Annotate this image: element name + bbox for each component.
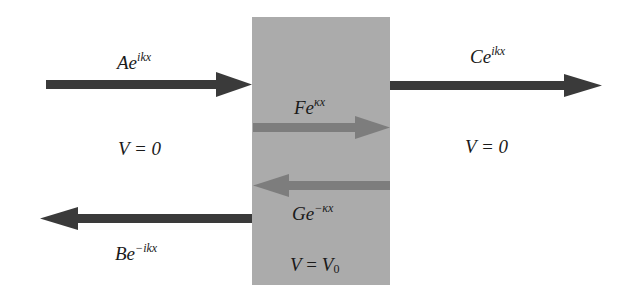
right-region-potential-label: V = 0	[465, 137, 508, 156]
exp-base: e	[127, 243, 135, 264]
equals-sign: =	[302, 254, 322, 275]
exp-base: e	[483, 46, 491, 67]
decaying-wave-label: Ge−κx	[292, 204, 333, 223]
potential-symbol: V	[290, 254, 302, 275]
incident-wave-label: Aeikx	[117, 53, 151, 72]
subscript-zero: 0	[333, 262, 339, 276]
coefficient-g: G	[292, 203, 306, 224]
coefficient-f: F	[294, 97, 306, 118]
barrier-potential-label: V = V0	[290, 255, 339, 274]
exponent: ikx	[491, 44, 505, 58]
transmitted-wave-label: Ceikx	[470, 47, 505, 66]
coefficient-a: A	[117, 52, 129, 73]
reflected-wave-arrow	[40, 207, 252, 230]
exp-base: e	[129, 52, 137, 73]
potential-symbol: V	[322, 254, 334, 275]
exp-base: e	[306, 97, 314, 118]
incident-wave-arrow	[46, 72, 252, 97]
exponent: ikx	[137, 50, 151, 64]
exponent: −ikx	[135, 241, 157, 255]
exponent: −κx	[314, 201, 333, 215]
potential-barrier	[252, 17, 390, 285]
coefficient-b: B	[115, 243, 127, 264]
transmitted-wave-arrow	[390, 74, 602, 97]
exp-base: e	[306, 203, 314, 224]
potential-text: V = 0	[465, 136, 508, 157]
left-region-potential-label: V = 0	[118, 139, 161, 158]
reflected-wave-label: Be−ikx	[115, 244, 157, 263]
coefficient-c: C	[470, 46, 483, 67]
potential-text: V = 0	[118, 138, 161, 159]
growing-wave-label: Feκx	[294, 98, 325, 117]
exponent: κx	[314, 95, 325, 109]
